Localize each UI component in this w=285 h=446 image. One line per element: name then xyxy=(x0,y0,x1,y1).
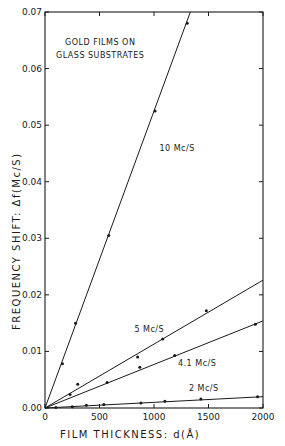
data-point xyxy=(199,397,202,400)
data-point xyxy=(69,393,72,396)
data-point xyxy=(71,405,74,408)
data-point xyxy=(139,401,142,404)
y-tick-label: 0.04 xyxy=(22,177,42,187)
data-point xyxy=(138,366,141,369)
y-tick-label: 0.02 xyxy=(22,290,42,300)
series-label: 5 Mc/S xyxy=(134,325,164,334)
plot-frame xyxy=(45,12,263,408)
x-tick-label: 500 xyxy=(91,412,108,422)
data-point xyxy=(61,362,64,365)
data-point xyxy=(161,337,164,340)
frequency-shift-chart: 0.000.010.020.030.040.050.060.07 0500100… xyxy=(0,0,285,446)
x-axis-title: FILM THICKNESS: d(Å) xyxy=(60,428,200,440)
data-point xyxy=(76,383,79,386)
data-point xyxy=(173,354,176,357)
series-line xyxy=(45,321,263,408)
y-axis-title: FREQUENCY SHIFT: Δf(Mc/S) xyxy=(11,152,22,330)
y-tick-label: 0.05 xyxy=(22,120,42,130)
x-tick-label: 1000 xyxy=(143,412,166,422)
data-point xyxy=(102,403,105,406)
series-label: 2 Mc/S xyxy=(189,384,219,393)
y-axis-ticks: 0.000.010.020.030.040.050.060.07 xyxy=(22,7,263,413)
x-tick-label: 2000 xyxy=(252,412,275,422)
data-point xyxy=(163,400,166,403)
data-point xyxy=(205,309,208,312)
plot-border xyxy=(45,12,263,408)
data-point xyxy=(107,234,110,237)
series-line xyxy=(45,12,190,408)
data-point xyxy=(136,356,139,359)
series-line xyxy=(45,280,263,408)
series-lines xyxy=(45,12,263,408)
chart-title-line-2: GLASS SUBSTRATES xyxy=(56,51,144,60)
x-axis-ticks: 0500100015002000 xyxy=(42,12,275,422)
data-point xyxy=(154,110,157,113)
data-points xyxy=(54,22,259,409)
y-tick-label: 0.07 xyxy=(22,7,42,17)
x-tick-label: 1500 xyxy=(197,412,220,422)
data-point xyxy=(256,395,259,398)
data-point xyxy=(85,404,88,407)
series-label: 10 Mc/S xyxy=(159,144,194,153)
data-point xyxy=(54,406,57,409)
series-label: 4.1 Mc/S xyxy=(178,359,216,368)
y-tick-label: 0.00 xyxy=(22,403,42,413)
data-point xyxy=(186,22,189,25)
y-tick-label: 0.03 xyxy=(22,233,42,243)
x-tick-label: 0 xyxy=(42,412,48,422)
data-point xyxy=(254,323,257,326)
y-tick-label: 0.01 xyxy=(22,346,42,356)
data-point xyxy=(74,322,77,325)
data-point xyxy=(106,381,109,384)
chart-title-line-1: GOLD FILMS ON xyxy=(65,38,135,47)
y-tick-label: 0.06 xyxy=(22,64,42,74)
